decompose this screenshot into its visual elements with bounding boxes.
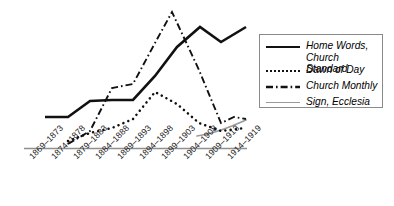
series-line-home-words (45, 27, 246, 117)
legend-item-church-monthly: Church Monthly (266, 80, 377, 93)
series-line-church-monthly (68, 12, 246, 144)
solid-line-icon (266, 41, 300, 53)
chart-legend: Home Words, Church Standard Dawn of Day … (259, 34, 383, 108)
gray-line-icon (266, 97, 300, 109)
legend-label-dawn-of-day: Dawn of Day (306, 64, 364, 76)
legend-label-sign-ecclesia: Sign, Ecclesia (306, 96, 370, 108)
legend-label-church-monthly: Church Monthly (306, 80, 377, 92)
dotted-line-icon (266, 65, 300, 77)
legend-item-sign-ecclesia: Sign, Ecclesia (266, 96, 370, 109)
chart-figure: 1869–1873 1874–1878 1879–1883 1884–1888 … (0, 0, 394, 206)
legend-item-dawn-of-day: Dawn of Day (266, 64, 364, 77)
dash-dot-line-icon (266, 81, 300, 93)
